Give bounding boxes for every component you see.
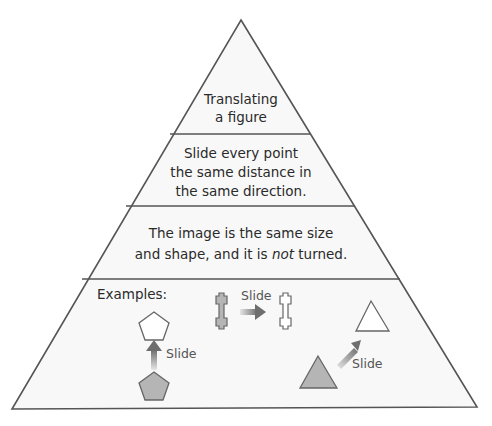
- level3-line1: The image is the same size: [148, 225, 334, 241]
- level3-emphasis: not: [272, 246, 295, 262]
- example3-slide-label: Slide: [352, 356, 383, 371]
- level3-line2-post: turned.: [294, 246, 347, 262]
- arrow-up-shaft: [151, 350, 157, 370]
- level3-line2: and shape, and it is not turned.: [135, 246, 347, 262]
- arrow-right-shaft: [240, 309, 257, 315]
- level1-line1: Translating: [203, 91, 278, 107]
- level2-line2: the same distance in: [170, 164, 311, 180]
- example1-slide-label: Slide: [166, 346, 197, 361]
- examples-heading: Examples:: [97, 286, 167, 302]
- pyramid-diagram: Translating a figure Slide every point t…: [0, 0, 492, 426]
- level1-line2: a figure: [215, 109, 267, 125]
- level3-line2-pre: and shape, and it is: [135, 246, 272, 262]
- level2-line3: the same direction.: [176, 183, 307, 199]
- pyramid-outline: [12, 20, 477, 409]
- example2-slide-label: Slide: [241, 288, 272, 303]
- level2-line1: Slide every point: [184, 145, 298, 161]
